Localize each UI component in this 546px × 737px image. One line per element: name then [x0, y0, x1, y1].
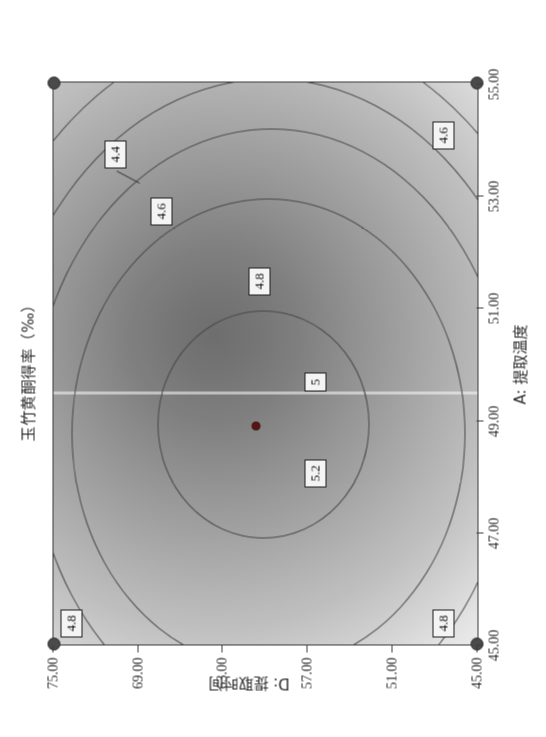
figure-title: 玉竹黄酮得率（‰）	[16, 0, 37, 737]
x-axis-title: A: 提取温度	[508, 83, 529, 645]
x-tick-label-4: 53.00	[486, 180, 502, 212]
contour-label-4.6-bottom-right: 4.6	[432, 121, 454, 149]
x-tick-label-5: 55.00	[486, 68, 502, 100]
x-tick-label-2: 49.00	[486, 405, 502, 437]
contour-label-5.2: 5.2	[304, 459, 326, 487]
x-tick-label-3: 51.00	[486, 292, 502, 324]
contour-label-5: 5	[304, 373, 326, 392]
contour-label-4.4: 4.4	[104, 140, 126, 168]
y-tick-45	[476, 645, 477, 652]
contour-label-4.8-right: 4.8	[248, 267, 270, 295]
x-tick-5	[476, 83, 483, 84]
contour-label-4.6-upper: 4.6	[150, 197, 172, 225]
y-tick-69	[137, 645, 138, 652]
x-tick-4	[476, 195, 483, 196]
x-tick-label-0: 45.00	[486, 629, 502, 661]
x-tick-1	[476, 532, 483, 533]
y-tick-57	[306, 645, 307, 652]
y-tick-51	[391, 645, 392, 652]
y-tick-label-75: 75.00	[45, 657, 61, 709]
x-tick-label-1: 47.00	[486, 517, 502, 549]
contour-plot-figure: 玉竹黄酮得率（‰） 4.8 4.8 4.4 4.6 4.8 4.6 5 5.2 …	[0, 0, 546, 737]
contour-label-4.8-top-left: 4.8	[60, 609, 82, 637]
x-tick-2	[476, 420, 483, 421]
y-tick-label-45: 45.00	[469, 657, 485, 709]
y-tick-75	[52, 645, 53, 652]
x-tick-3	[476, 307, 483, 308]
y-tick-label-51: 51.00	[384, 657, 400, 709]
y-axis-title: D: 提取时间	[119, 675, 379, 696]
design-point-top-right	[47, 76, 60, 89]
contour-label-4.8-bottom-left: 4.8	[432, 609, 454, 637]
y-tick-63	[221, 645, 222, 652]
optimum-design-point	[251, 421, 260, 430]
